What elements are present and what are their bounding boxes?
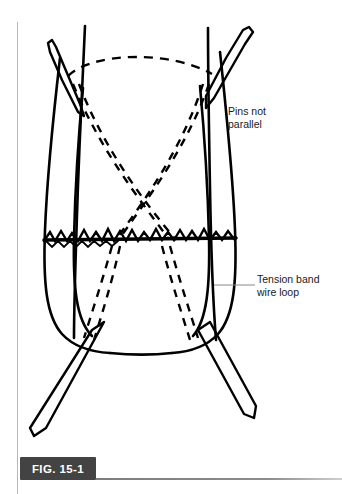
k-wire-pin-left <box>30 26 104 436</box>
patella-tension-band-illustration <box>0 0 342 460</box>
outline-bottom <box>110 353 172 355</box>
wire-lower-right-inner <box>162 246 190 340</box>
figure-page: Pins not parallel Tension band wire loop… <box>0 0 342 494</box>
callout-pins-not-parallel: Pins not parallel <box>228 105 266 130</box>
wire-top-arc <box>68 57 212 76</box>
outline-right-inner <box>193 86 209 336</box>
pin-left-upper-blade <box>48 40 84 116</box>
pin-right-upper-blade <box>206 27 253 108</box>
k-wire-pin-right <box>198 27 256 418</box>
callout-tension-band-wire-loop: Tension band wire loop <box>257 273 319 298</box>
wire-band-zigzag-under <box>46 241 118 247</box>
tension-band-zigzag-wire <box>44 229 236 247</box>
wire-limb-right-outer <box>120 84 209 238</box>
figure-caption-label: FIG. 15-1 <box>32 463 84 475</box>
wire-limb-left-outer <box>73 84 168 238</box>
pin-right-shaft <box>208 28 216 340</box>
figure-eight-wire-dashed <box>68 57 212 340</box>
pin-right-lower-blade <box>198 322 256 418</box>
illustration-svg <box>0 0 342 460</box>
figure-caption-rule <box>96 478 342 480</box>
wire-limb-left-inner <box>79 84 176 240</box>
figure-caption-box: FIG. 15-1 <box>20 457 96 480</box>
